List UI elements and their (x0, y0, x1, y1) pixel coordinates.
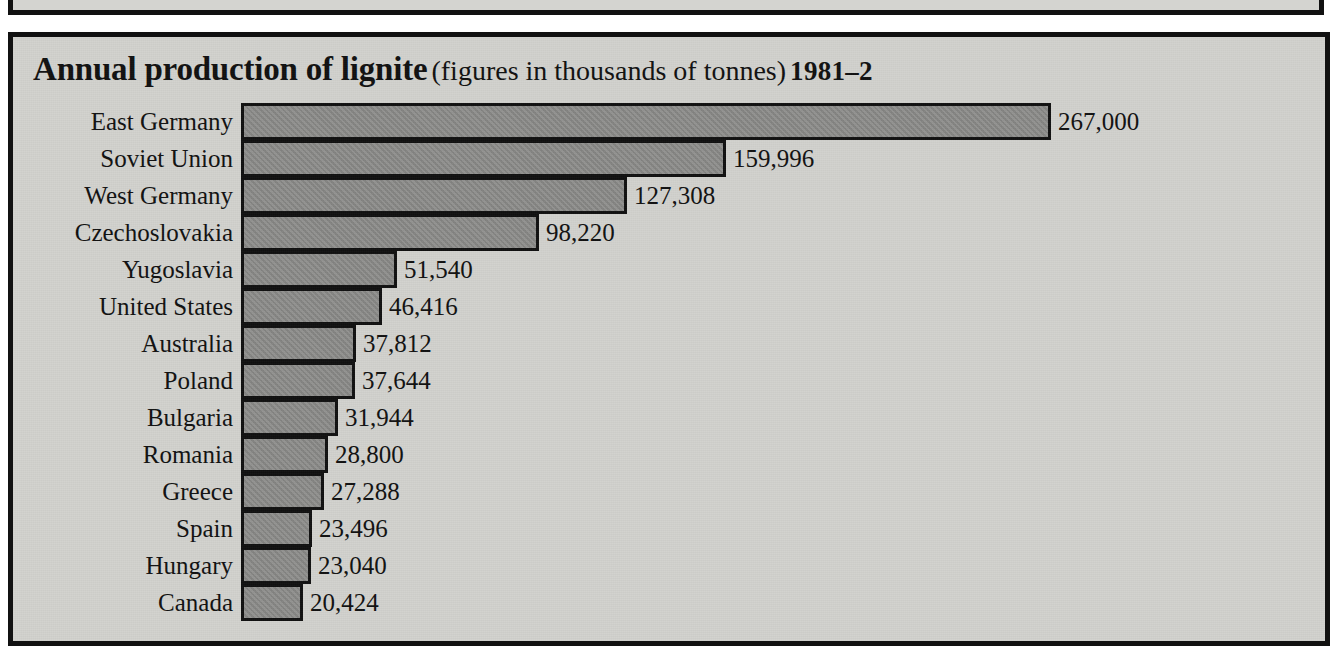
bar-east-germany (241, 103, 1051, 140)
bar-value-label: 20,424 (303, 584, 379, 621)
category-label-text: Greece (23, 473, 233, 510)
bar-value-label: 37,812 (356, 325, 432, 362)
category-label-poland: Poland (23, 362, 233, 399)
category-label-text: Romania (23, 436, 233, 473)
category-label-text: Spain (23, 510, 233, 547)
bar-bulgaria (241, 399, 338, 436)
bar-row: Bulgaria31,944 (13, 399, 1325, 436)
category-label-text: Bulgaria (23, 399, 233, 436)
chart-title-main: Annual production of lignite (33, 51, 427, 87)
bar-value-label: 37,644 (355, 362, 431, 399)
bar-value-label: 31,944 (338, 399, 414, 436)
bar-spain (241, 510, 312, 547)
category-label-romania: Romania (23, 436, 233, 473)
bar-value-label: 23,040 (311, 547, 387, 584)
bar-row: Czechoslovakia98,220 (13, 214, 1325, 251)
bar-row: Spain23,496 (13, 510, 1325, 547)
bar-value-label: 23,496 (312, 510, 388, 547)
category-label-text: Poland (23, 362, 233, 399)
category-label-text: Yugoslavia (23, 251, 233, 288)
bar-row: Hungary23,040 (13, 547, 1325, 584)
bar-greece (241, 473, 324, 510)
bar-row: Poland37,644 (13, 362, 1325, 399)
bar-west-germany (241, 177, 627, 214)
chart-panel: Annual production of lignite (figures in… (8, 32, 1330, 646)
category-label-text: Hungary (23, 547, 233, 584)
bar-hungary (241, 547, 311, 584)
category-label-east-germany: East Germany (23, 103, 233, 140)
category-label-australia: Australia (23, 325, 233, 362)
chart-title-parenthetical: (figures in thousands of tonnes) (431, 55, 786, 86)
bar-value-label: 27,288 (324, 473, 400, 510)
category-label-text: United States (23, 288, 233, 325)
bar-czechoslovakia (241, 214, 539, 251)
bar-row: Romania28,800 (13, 436, 1325, 473)
adjacent-panel-edge (8, 0, 1324, 15)
bar-chart-plot-area: East Germany267,000Soviet Union159,996We… (13, 103, 1325, 621)
bar-soviet-union (241, 140, 726, 177)
bar-australia (241, 325, 356, 362)
category-label-hungary: Hungary (23, 547, 233, 584)
category-label-united-states: United States (23, 288, 233, 325)
bar-value-label: 28,800 (328, 436, 404, 473)
bar-row: Greece27,288 (13, 473, 1325, 510)
bar-row: West Germany127,308 (13, 177, 1325, 214)
category-label-czechoslovakia: Czechoslovakia (23, 214, 233, 251)
bar-value-label: 267,000 (1051, 103, 1139, 140)
category-label-west-germany: West Germany (23, 177, 233, 214)
category-label-text: Australia (23, 325, 233, 362)
bar-row: Soviet Union159,996 (13, 140, 1325, 177)
bar-yugoslavia (241, 251, 397, 288)
bar-value-label: 51,540 (397, 251, 473, 288)
bar-row: Australia37,812 (13, 325, 1325, 362)
category-label-text: Soviet Union (23, 140, 233, 177)
category-label-bulgaria: Bulgaria (23, 399, 233, 436)
category-label-greece: Greece (23, 473, 233, 510)
category-label-spain: Spain (23, 510, 233, 547)
category-label-text: Czechoslovakia (23, 214, 233, 251)
bar-row: United States46,416 (13, 288, 1325, 325)
bar-value-label: 127,308 (627, 177, 715, 214)
chart-title-years: 1981–2 (790, 56, 873, 86)
category-label-text: Canada (23, 584, 233, 621)
bar-poland (241, 362, 355, 399)
category-label-soviet-union: Soviet Union (23, 140, 233, 177)
bar-row: East Germany267,000 (13, 103, 1325, 140)
category-label-yugoslavia: Yugoslavia (23, 251, 233, 288)
category-label-canada: Canada (23, 584, 233, 621)
bar-romania (241, 436, 328, 473)
bar-united-states (241, 288, 382, 325)
bar-row: Canada20,424 (13, 584, 1325, 621)
category-label-text: East Germany (23, 103, 233, 140)
bar-canada (241, 584, 303, 621)
category-label-text: West Germany (23, 177, 233, 214)
bar-value-label: 98,220 (539, 214, 615, 251)
bar-row: Yugoslavia51,540 (13, 251, 1325, 288)
chart-title: Annual production of lignite (figures in… (33, 53, 873, 86)
bar-value-label: 159,996 (726, 140, 814, 177)
bar-value-label: 46,416 (382, 288, 458, 325)
